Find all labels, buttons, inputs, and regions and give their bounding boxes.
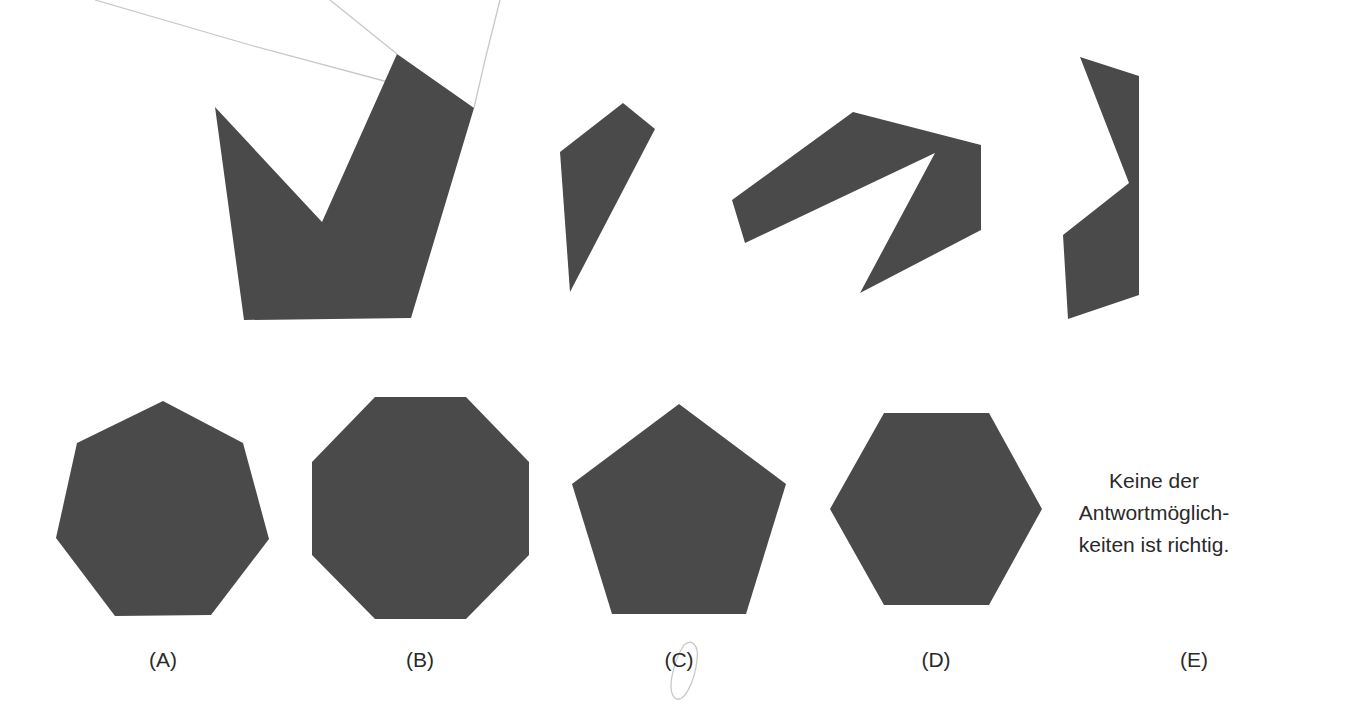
puzzle-pieces [215,54,1139,320]
option-e-line-2: Antwortmöglich- [1054,497,1254,529]
figure-canvas [0,0,1345,717]
option-label-e[interactable]: (E) [1180,648,1208,672]
option-e-text[interactable]: Keine der Antwortmöglich- keiten ist ric… [1054,465,1254,561]
puzzle-piece-2 [560,103,655,292]
pencil-line [330,0,397,54]
option-label-c[interactable]: (C) [664,648,693,672]
option-e-line-1: Keine der [1054,465,1254,497]
option-label-a[interactable]: (A) [149,648,177,672]
option-label-d[interactable]: (D) [921,648,950,672]
option-e-line-3: keiten ist richtig. [1054,529,1254,561]
puzzle-piece-1 [215,54,474,320]
octagon-option-b[interactable] [312,397,529,619]
pencil-line [95,0,388,82]
heptagon-option-a[interactable] [56,401,269,616]
pencil-line [474,0,500,108]
hexagon-option-d[interactable] [830,413,1042,605]
answer-shapes [56,397,1042,619]
puzzle-piece-3 [732,112,981,293]
puzzle-piece-4 [1063,57,1139,319]
option-label-b[interactable]: (B) [406,648,434,672]
pentagon-option-c[interactable] [572,404,786,614]
